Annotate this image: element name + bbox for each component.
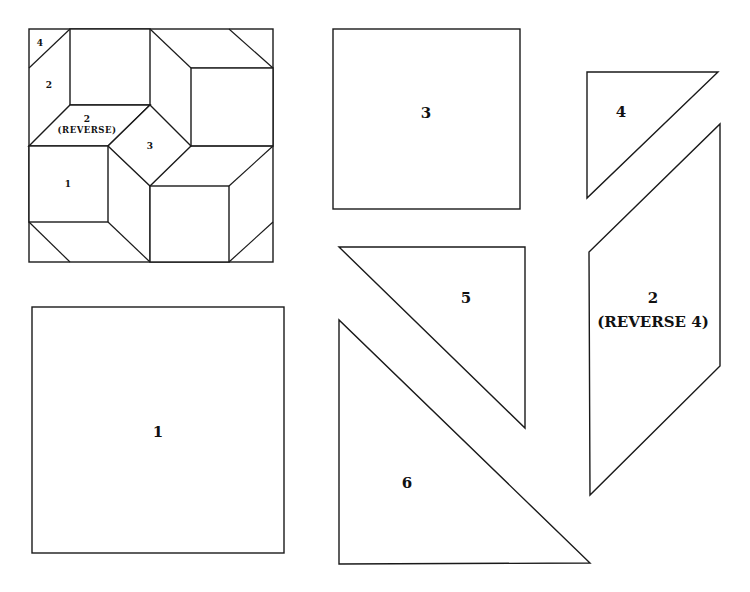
template-piece-1: 1 — [32, 307, 284, 553]
block-label-3: 3 — [147, 141, 153, 151]
template-5-label: 5 — [461, 289, 471, 307]
block-label-2: 2 — [46, 80, 52, 90]
template-4-label: 4 — [616, 103, 626, 121]
template-6-label: 6 — [402, 474, 412, 492]
template-1-label: 1 — [153, 423, 163, 441]
block-label-2-reverse-num: 2 — [84, 114, 90, 124]
template-3-label: 3 — [421, 104, 431, 122]
template-2-label: 2 — [648, 289, 658, 307]
block-label-4: 4 — [37, 38, 43, 48]
quilt-pattern-diagram: 4 2 2 (REVERSE) 3 1 3 4 2 (REVERSE 4) 5 … — [0, 0, 750, 592]
template-2-sublabel: (REVERSE 4) — [597, 313, 709, 331]
quilt-block: 4 2 2 (REVERSE) 3 1 — [29, 29, 273, 262]
block-square-top-right — [191, 68, 273, 146]
block-square-top-left — [70, 29, 150, 105]
template-piece-3: 3 — [333, 29, 520, 209]
block-square-bottom-right — [150, 186, 229, 262]
block-label-1: 1 — [65, 179, 71, 189]
block-label-2-reverse-text: (REVERSE) — [58, 125, 117, 135]
template-2-outline — [589, 124, 720, 495]
template-piece-2: 2 (REVERSE 4) — [589, 124, 720, 495]
